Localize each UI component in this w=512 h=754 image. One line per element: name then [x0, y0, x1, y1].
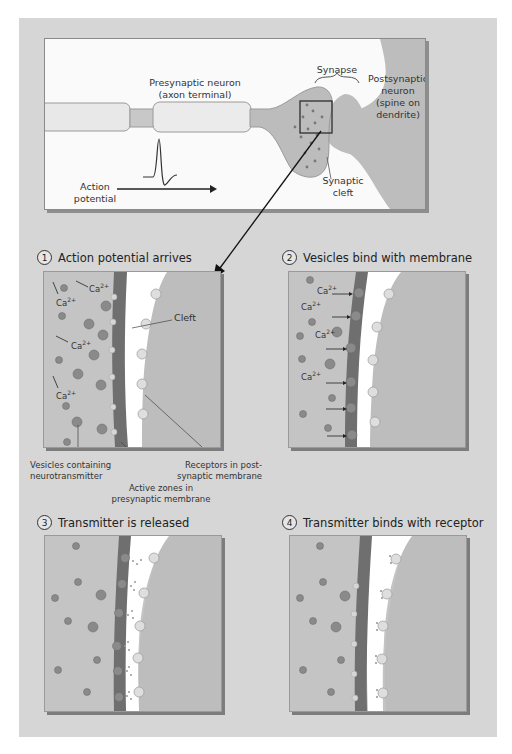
calcium-ion-label: Ca2+ — [89, 282, 109, 294]
synapse-closeup-3 — [45, 536, 221, 711]
step-number-badge: 4 — [282, 515, 297, 530]
step-4-title-text: Transmitter binds with receptor — [303, 516, 484, 530]
step-1-title-text: Action potential arrives — [58, 251, 192, 265]
synapse-closeup-4 — [290, 536, 466, 711]
vesicles-label: Vesicles containing neurotransmitter — [30, 460, 140, 482]
calcium-ion-label: Ca2+ — [315, 328, 335, 340]
calcium-ion-label: Ca2+ — [301, 370, 321, 382]
step-number-badge: 2 — [282, 250, 297, 265]
calcium-ion-label: Ca2+ — [317, 284, 337, 296]
step-4-panel — [289, 535, 467, 712]
step-2-title: 2 Vesicles bind with membrane — [282, 250, 472, 265]
step-4-title: 4 Transmitter binds with receptor — [282, 515, 484, 530]
step-2-title-text: Vesicles bind with membrane — [303, 251, 472, 265]
receptors-label: Receptors in post- synaptic membrane — [172, 460, 262, 482]
step-2-panel: Ca2+ Ca2+ Ca2+ Ca2+ — [288, 271, 466, 448]
active-zones-label: Active zones in presynaptic membrane — [106, 483, 216, 505]
step-3-title: 3 Transmitter is released — [37, 515, 189, 530]
step-number-badge: 3 — [37, 515, 52, 530]
calcium-ion-label: Ca2+ — [56, 389, 76, 401]
calcium-ion-label: Ca2+ — [301, 300, 321, 312]
step-1-panel: Ca2+ Ca2+ Ca2+ Ca2+ Cleft — [43, 271, 221, 448]
calcium-ion-label: Ca2+ — [71, 339, 91, 351]
step-3-title-text: Transmitter is released — [58, 516, 189, 530]
step-number-badge: 1 — [37, 250, 52, 265]
synapse-closeup-2 — [289, 272, 465, 447]
step-1-title: 1 Action potential arrives — [37, 250, 192, 265]
calcium-ion-label: Ca2+ — [56, 296, 76, 308]
cleft-label: Cleft — [174, 312, 196, 323]
step-3-panel — [44, 535, 222, 712]
